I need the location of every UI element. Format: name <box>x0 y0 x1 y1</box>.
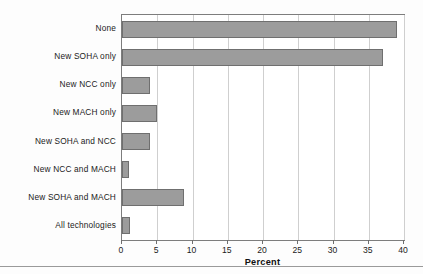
gridline-40 <box>404 15 405 240</box>
x-tick-40 <box>403 240 404 244</box>
category-label: New SOHA only <box>0 51 116 61</box>
category-label: New SOHA and MACH <box>0 192 116 202</box>
category-label: All technologies <box>0 220 116 230</box>
x-tick-label: 30 <box>318 245 348 256</box>
x-tick-30 <box>333 240 334 244</box>
x-tick-0 <box>121 240 122 244</box>
x-tick-label: 25 <box>282 245 312 256</box>
bar <box>122 49 383 66</box>
x-tick-label: 10 <box>177 245 207 256</box>
x-tick-35 <box>368 240 369 244</box>
x-axis-tick-labels: 0510152025303540 <box>0 245 423 257</box>
x-tick-20 <box>262 240 263 244</box>
bar <box>122 77 150 94</box>
x-tick-label: 5 <box>141 245 171 256</box>
bar <box>122 21 397 38</box>
x-tick-label: 40 <box>388 245 418 256</box>
category-label: New SOHA and NCC <box>0 136 116 146</box>
category-label: None <box>0 23 116 33</box>
bar <box>122 189 184 206</box>
page-divider-rule <box>0 266 423 267</box>
category-label: New MACH only <box>0 107 116 117</box>
x-tick-label: 0 <box>106 245 136 256</box>
bar <box>122 133 150 150</box>
x-tick-5 <box>156 240 157 244</box>
x-tick-10 <box>192 240 193 244</box>
x-tick-15 <box>227 240 228 244</box>
bar <box>122 161 129 178</box>
x-tick-label: 15 <box>212 245 242 256</box>
bar <box>122 217 130 234</box>
bar <box>122 105 157 122</box>
category-label: New NCC and MACH <box>0 164 116 174</box>
x-tick-25 <box>297 240 298 244</box>
plot-area <box>121 14 405 241</box>
category-label: New NCC only <box>0 79 116 89</box>
category-axis-labels: NoneNew SOHA onlyNew NCC onlyNew MACH on… <box>0 14 116 239</box>
x-tick-label: 35 <box>353 245 383 256</box>
bar-chart-figure: NoneNew SOHA onlyNew NCC onlyNew MACH on… <box>0 0 423 274</box>
x-tick-label: 20 <box>247 245 277 256</box>
